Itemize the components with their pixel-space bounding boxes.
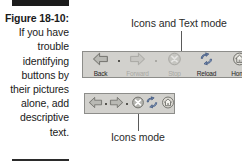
figure-caption-column: Figure 18-10: If you have trouble identi… [0,0,72,167]
figure-caption: Figure 18-10: If you have trouble identi… [0,11,69,139]
toolbar-icons-only-button-forward[interactable] [109,95,124,113]
toolbar-icons-only-mode [84,93,175,114]
toolbar-button-stop[interactable]: Stop [159,52,190,77]
annotation-icons-and-text-mode: Icons and Text mode [131,17,227,29]
stop-icon [167,52,182,70]
stop-icon [131,95,145,113]
toolbar-button-reload-label: Reload [197,70,216,77]
toolbar-icons-only-button-back[interactable] [88,95,103,113]
toolbar-button-back-label: Back [94,70,108,77]
toolbar-button-home-label: Home [231,70,242,77]
arrow-left-icon [88,95,103,113]
caption-rule-top [12,0,69,6]
annotation-leader-line-top [181,31,182,52]
figure-number-label: Figure 18-10: [0,11,69,25]
toolbar-button-back[interactable]: Back [85,52,116,77]
caption-rule-bottom [12,159,69,161]
toolbar-icons-only-button-stop[interactable] [130,95,145,113]
arrow-left-icon [92,52,109,70]
toolbar-button-forward[interactable]: Forward [122,52,153,77]
annotation-icons-mode: Icons mode [111,131,165,143]
home-icon [161,95,175,113]
reload-icon [145,95,160,113]
toolbar-button-forward-label: Forward [126,70,148,77]
reload-icon [199,52,215,70]
toolbar-button-stop-label: Stop [168,70,181,77]
toolbar-icons-only-button-home[interactable] [160,95,175,113]
toolbar-icons-and-text-mode: Back Forward Stop Reload [82,51,242,78]
annotation-leader-line-bottom [138,114,139,131]
figure-caption-text: If you have trouble identifying buttons … [0,25,69,139]
toolbar-icons-only-button-reload[interactable] [145,95,160,113]
toolbar-button-reload[interactable]: Reload [190,52,223,77]
arrow-right-icon [129,52,146,70]
arrow-right-icon [109,95,124,113]
home-icon [232,52,242,70]
toolbar-button-home[interactable]: Home [223,52,242,77]
